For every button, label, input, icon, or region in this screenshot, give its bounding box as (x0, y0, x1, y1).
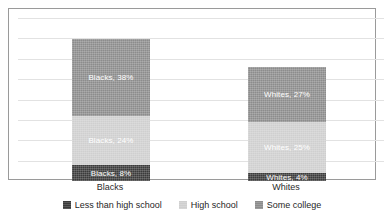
segment-data-label: Whites, 4% (266, 173, 307, 181)
category-axis: BlacksWhites (8, 182, 376, 196)
segment-data-label: Blacks, 8% (91, 169, 132, 178)
legend-swatch-icon (255, 201, 263, 209)
legend-label: Some college (267, 200, 322, 210)
chart-legend: Less than high schoolHigh schoolSome col… (0, 200, 384, 210)
bar-segment[interactable]: Whites, 25% (248, 122, 326, 173)
bar-segment[interactable]: Whites, 4% (248, 173, 326, 181)
legend-item[interactable]: Some college (255, 200, 322, 210)
legend-item[interactable]: Less than high school (63, 200, 162, 210)
legend-label: Less than high school (75, 200, 162, 210)
bar-blacks[interactable]: Blacks, 8%Blacks, 24%Blacks, 38% (72, 38, 150, 181)
legend-label: High school (191, 200, 238, 210)
segment-data-label: Blacks, 38% (88, 73, 133, 82)
legend-swatch-icon (63, 201, 71, 209)
bar-segment[interactable]: Whites, 27% (248, 67, 326, 122)
bar-segment[interactable]: Blacks, 38% (72, 39, 150, 116)
category-label-blacks: Blacks (65, 182, 155, 192)
segment-data-label: Whites, 25% (264, 143, 310, 152)
chart-frame: Blacks, 8%Blacks, 24%Blacks, 38%Whites, … (8, 8, 376, 180)
legend-item[interactable]: High school (179, 200, 238, 210)
plot-area: Blacks, 8%Blacks, 24%Blacks, 38%Whites, … (18, 18, 384, 181)
stacked-bar-chart-figure: Blacks, 8%Blacks, 24%Blacks, 38%Whites, … (0, 0, 384, 219)
category-label-whites: Whites (241, 182, 331, 192)
bar-segment[interactable]: Blacks, 24% (72, 116, 150, 165)
bar-segment[interactable]: Blacks, 8% (72, 165, 150, 181)
bars-layer: Blacks, 8%Blacks, 24%Blacks, 38%Whites, … (18, 18, 384, 181)
bar-whites[interactable]: Whites, 4%Whites, 25%Whites, 27% (248, 67, 326, 181)
legend-swatch-icon (179, 201, 187, 209)
segment-data-label: Whites, 27% (264, 90, 310, 99)
segment-data-label: Blacks, 24% (88, 136, 133, 145)
